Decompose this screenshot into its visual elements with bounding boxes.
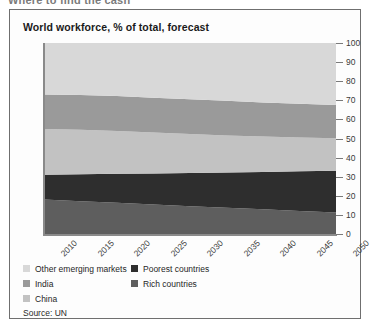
- y-tick-label: 20: [346, 191, 355, 201]
- y-tick-label: 50: [346, 134, 355, 144]
- x-tick-label: 2045: [314, 238, 334, 258]
- x-tick-label: 2020: [132, 238, 152, 258]
- x-tick-label: 2015: [95, 238, 115, 258]
- x-tick-label: 2040: [278, 238, 298, 258]
- y-tick-label: 0: [346, 229, 351, 239]
- y-tick: [336, 215, 343, 216]
- y-tick: [336, 119, 343, 120]
- legend-item: Poorest countries: [131, 262, 209, 275]
- legend-swatch-icon: [23, 280, 30, 287]
- chart-title: World workforce, % of total, forecast: [23, 21, 209, 33]
- legend-label: Poorest countries: [143, 264, 209, 274]
- y-tick: [336, 158, 343, 159]
- legend-item: Other emerging markets: [23, 262, 127, 275]
- legend-item: Rich countries: [131, 277, 209, 290]
- legend-label: Other emerging markets: [35, 264, 127, 274]
- y-axis-spine: [43, 43, 45, 235]
- y-tick-label: 90: [346, 57, 355, 67]
- legend-label: China: [35, 294, 57, 304]
- y-tick: [336, 100, 343, 101]
- page-headline: Where to find the cash: [8, 0, 348, 6]
- source-note: Source: UN: [23, 308, 67, 318]
- x-tick-label: 2030: [205, 238, 225, 258]
- y-tick: [336, 234, 343, 235]
- legend-label: Rich countries: [143, 279, 197, 289]
- y-tick-label: 60: [346, 114, 355, 124]
- legend-item: China: [23, 292, 127, 305]
- y-tick: [336, 139, 343, 140]
- stacked-area-svg: [44, 43, 336, 234]
- y-tick-label: 70: [346, 95, 355, 105]
- y-tick: [336, 43, 343, 44]
- y-tick: [336, 62, 343, 63]
- legend-label: India: [35, 279, 53, 289]
- legend-column-left: Other emerging marketsIndiaChina: [23, 262, 127, 307]
- x-axis-spine: [43, 234, 337, 236]
- x-tick-label: 2050: [351, 238, 371, 258]
- y-tick-label: 80: [346, 76, 355, 86]
- legend-swatch-icon: [131, 265, 138, 272]
- y-tick: [336, 177, 343, 178]
- legend-swatch-icon: [23, 265, 30, 272]
- x-tick-label: 2035: [241, 238, 261, 258]
- y-tick-label: 30: [346, 172, 355, 182]
- y-tick: [336, 81, 343, 82]
- chart-card: World workforce, % of total, forecast 01…: [9, 9, 361, 319]
- plot-area: [44, 43, 336, 234]
- y-tick-label: 40: [346, 153, 355, 163]
- y-tick: [336, 196, 343, 197]
- y-tick-label: 100: [346, 38, 360, 48]
- legend-item: India: [23, 277, 127, 290]
- legend-swatch-icon: [131, 280, 138, 287]
- x-tick-label: 2025: [168, 238, 188, 258]
- y-tick-label: 10: [346, 210, 355, 220]
- legend-column-right: Poorest countriesRich countries: [131, 262, 209, 292]
- x-tick-label: 2010: [59, 238, 79, 258]
- legend-swatch-icon: [23, 295, 30, 302]
